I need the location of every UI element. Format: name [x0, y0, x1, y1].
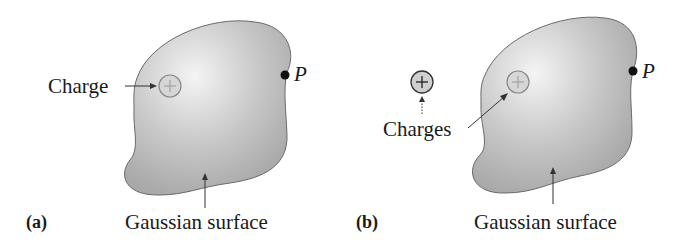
panel-tag-a: (a) [26, 213, 47, 231]
charge-icon-b-inside [507, 71, 529, 93]
gaussian-surface-a [125, 21, 291, 195]
panel-b: Charges P (b) Gaussian surface [340, 0, 685, 248]
panel-tag-b: (b) [356, 213, 378, 231]
point-p-label-a: P [294, 64, 307, 85]
charge-icon-a-inside [159, 75, 181, 97]
arrow-icon-charge-b-outside [419, 96, 425, 114]
gaussian-surface-b [472, 17, 636, 193]
charge-icon-b-outside [411, 71, 433, 93]
point-p-label-b: P [642, 61, 655, 82]
panel-a: Charge P (a) Gaussian surface [0, 0, 340, 248]
gaussian-surface-label-a: Gaussian surface [125, 212, 268, 233]
arrow-icon-surface-a [202, 173, 208, 208]
charges-label-b: Charges [383, 119, 451, 140]
arrow-icon-surface-b [550, 167, 556, 204]
gaussian-surface-label-b: Gaussian surface [474, 212, 617, 233]
point-p-dot-b [629, 67, 638, 76]
charge-label-a: Charge [48, 76, 108, 97]
point-p-dot-a [281, 71, 290, 80]
